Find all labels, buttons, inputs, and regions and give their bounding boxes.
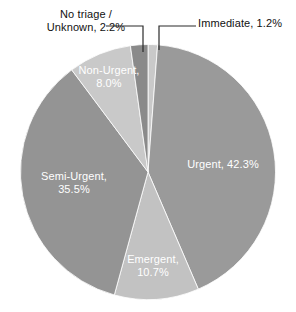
slice-label-urgent-line1: Urgent, 42.3%	[175, 158, 271, 171]
slice-label-emergent-line1: Emergent,	[105, 253, 201, 266]
callout-immediate-line1: Immediate, 1.2%	[198, 17, 282, 30]
slice-label-semi-urgent-line1: Semi-Urgent,	[26, 170, 122, 183]
slice-label-semi-urgent-line2: 35.5%	[26, 183, 122, 196]
slice-label-emergent: Emergent, 10.7%	[105, 253, 201, 279]
pie-chart-figure: No triage / Unknown, 2.2% Immediate, 1.2…	[0, 0, 296, 312]
callout-no-triage-line2: Unknown, 2.2%	[32, 21, 140, 34]
callout-label-no-triage: No triage / Unknown, 2.2%	[32, 8, 140, 34]
slice-label-emergent-line2: 10.7%	[105, 266, 201, 279]
slice-label-non-urgent: Non-Urgent, 8.0%	[61, 64, 157, 90]
slice-label-non-urgent-line1: Non-Urgent,	[61, 64, 157, 77]
slice-label-non-urgent-line2: 8.0%	[61, 77, 157, 90]
slice-label-semi-urgent: Semi-Urgent, 35.5%	[26, 170, 122, 196]
callout-no-triage-line1: No triage /	[32, 8, 140, 21]
slice-label-urgent: Urgent, 42.3%	[175, 158, 271, 171]
callout-label-immediate: Immediate, 1.2%	[198, 17, 282, 30]
